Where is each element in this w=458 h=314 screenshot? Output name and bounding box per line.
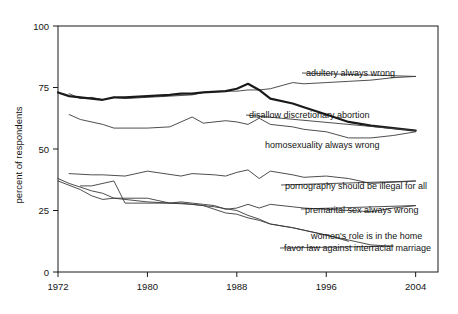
chart-background (0, 0, 458, 314)
y-tick-label: 100 (33, 21, 49, 32)
y-tick-label: 50 (38, 144, 49, 155)
chart-container: 0255075100 19721980198819962004 percent … (0, 0, 458, 314)
y-tick-label: 0 (44, 267, 49, 278)
x-tick-label: 1980 (137, 281, 158, 292)
series-label-adultery: adultery always wrong (306, 68, 395, 78)
series-label-homosexuality: homosexuality always wrong (265, 140, 380, 150)
y-tick-label: 25 (38, 205, 49, 216)
line-chart: 0255075100 19721980198819962004 percent … (0, 0, 458, 314)
x-tick-label: 1996 (316, 281, 337, 292)
series-label-premarital: premarital sex always wrong (305, 205, 419, 215)
x-tick-label: 1988 (226, 281, 247, 292)
series-label-interracial: favor law against interracial marriage (284, 243, 431, 253)
series-label-abortion: disallow discretionary abortion (249, 110, 370, 120)
series-label-women-role: women's role is in the home (310, 231, 422, 241)
x-tick-label: 1972 (47, 281, 68, 292)
y-axis-title: percent of respondents (13, 106, 24, 203)
series-label-pornography: pornography should be illegal for all (285, 181, 427, 191)
y-tick-label: 75 (38, 82, 49, 93)
x-tick-label: 2004 (405, 281, 426, 292)
